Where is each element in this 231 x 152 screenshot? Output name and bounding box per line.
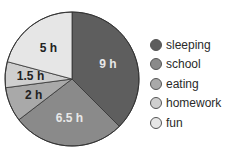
legend-item-fun: fun (150, 113, 221, 133)
slice-label-sleeping: 9 h (99, 57, 116, 71)
legend-label: sleeping (166, 38, 211, 52)
legend-label: homework (166, 96, 221, 110)
legend: sleeping school eating homework fun (150, 35, 221, 133)
legend-item-homework: homework (150, 94, 221, 114)
legend-swatch-icon (150, 117, 162, 129)
legend-swatch-icon (150, 97, 162, 109)
slice-label-school: 6.5 h (56, 111, 83, 125)
legend-swatch-icon (150, 78, 162, 90)
legend-swatch-icon (150, 58, 162, 70)
legend-label: fun (166, 116, 183, 130)
slice-label-homework: 1.5 h (17, 69, 44, 83)
legend-item-school: school (150, 55, 221, 75)
slice-label-eating: 2 h (25, 88, 42, 102)
legend-label: eating (166, 77, 199, 91)
legend-item-sleeping: sleeping (150, 35, 221, 55)
legend-swatch-icon (150, 39, 162, 51)
slice-label-fun: 5 h (40, 41, 57, 55)
legend-label: school (166, 57, 201, 71)
legend-item-eating: eating (150, 74, 221, 94)
pie-chart: 9 h6.5 h2 h1.5 h5 h (0, 0, 150, 152)
